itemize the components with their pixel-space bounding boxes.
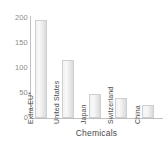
category-label-extra-eu: Extra-EU* bbox=[27, 92, 34, 124]
y-tick-150: 150 bbox=[0, 39, 28, 47]
bar-china[interactable] bbox=[142, 105, 154, 118]
bar-extra-eu[interactable] bbox=[35, 20, 47, 119]
y-tick-label: 200 bbox=[2, 14, 28, 22]
y-tick-label: 0 bbox=[2, 114, 28, 122]
x-axis-title: Chemicals bbox=[30, 128, 163, 138]
y-tick-label: 100 bbox=[2, 64, 28, 72]
y-tick-label: 50 bbox=[2, 89, 28, 97]
bar-united-states[interactable] bbox=[62, 60, 74, 118]
y-tick-100: 100 bbox=[0, 64, 28, 72]
category-label-china: China bbox=[134, 105, 141, 124]
y-tick-50: 50 bbox=[0, 89, 28, 97]
y-tick-label: 150 bbox=[2, 39, 28, 47]
y-tick-200: 200 bbox=[0, 14, 28, 22]
y-tick-0: 0 bbox=[0, 114, 28, 122]
bar-japan[interactable] bbox=[89, 94, 101, 118]
x-axis-line bbox=[30, 118, 163, 119]
category-label-united-states: United States bbox=[53, 81, 60, 124]
category-label-switzerland: Switzerland bbox=[107, 87, 114, 124]
bar-switzerland[interactable] bbox=[115, 98, 127, 118]
category-label-japan: Japan bbox=[80, 104, 87, 124]
bar-chart: 200 150 100 50 0 Extra-EU* United States… bbox=[0, 0, 168, 146]
plot-area: 200 150 100 50 0 Extra-EU* United States… bbox=[0, 0, 168, 146]
